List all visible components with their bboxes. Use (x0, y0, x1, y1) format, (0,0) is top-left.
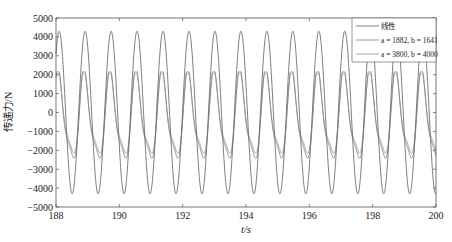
legend-label-series-3: a = 3800, b = 4000 (381, 50, 438, 59)
x-tick-label: 196 (302, 210, 317, 221)
chart: 188190192194196198200 500040003000200010… (0, 0, 452, 242)
legend-label-series-2: a = 1882, b = 1641 (381, 36, 438, 45)
y-tick-label: 5000 (33, 13, 53, 24)
y-tick-label: 2000 (33, 69, 53, 80)
x-tick-label: 192 (175, 210, 190, 221)
legend-label-linear: 线性 (381, 21, 396, 31)
y-tick-label: 1000 (33, 88, 53, 99)
x-tick-label: 194 (239, 210, 254, 221)
y-tick-label: 4000 (33, 31, 53, 42)
x-axis-label: t/s (241, 224, 251, 235)
x-tick-label: 200 (429, 210, 444, 221)
y-tick-label: 0 (48, 107, 53, 118)
x-tick-label: 190 (112, 210, 127, 221)
y-tick-label: −2000 (27, 145, 53, 156)
y-tick-label: −1000 (27, 126, 53, 137)
y-axis-label: 传递力/N (2, 91, 14, 132)
y-tick-label: −5000 (27, 202, 53, 213)
y-tick-label: −4000 (27, 183, 53, 194)
legend: 线性 a = 1882, b = 1641 a = 3800, b = 4000 (352, 18, 438, 62)
y-tick-label: −3000 (27, 164, 53, 175)
y-tick-label: 3000 (33, 50, 53, 61)
x-tick-label: 198 (365, 210, 380, 221)
